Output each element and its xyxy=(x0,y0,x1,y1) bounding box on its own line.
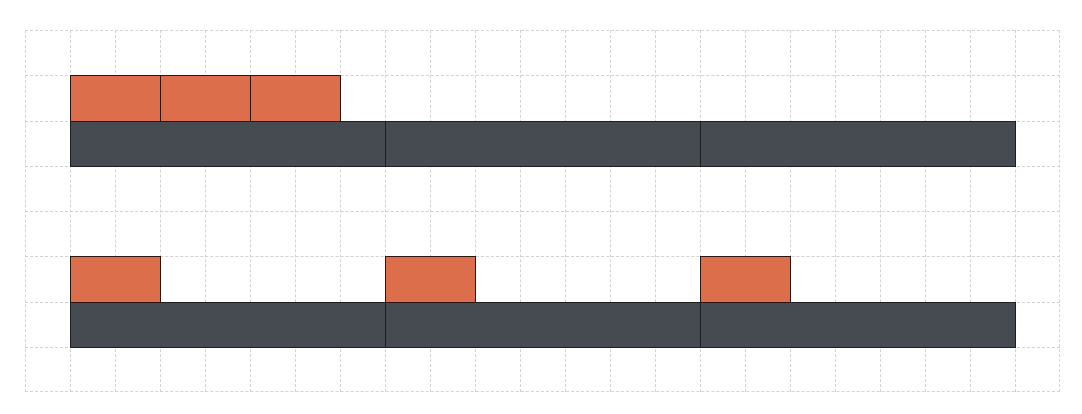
small-block xyxy=(385,256,476,302)
bar-segment xyxy=(385,302,701,348)
small-block xyxy=(160,75,251,121)
bar-segment xyxy=(385,121,701,167)
grid-line-horizontal xyxy=(25,256,1060,257)
small-block xyxy=(70,256,161,302)
small-block xyxy=(250,75,341,121)
bar-segment xyxy=(700,121,1016,167)
grid-line-horizontal xyxy=(25,211,1060,212)
small-block xyxy=(700,256,791,302)
small-block xyxy=(70,75,161,121)
grid-diagram xyxy=(0,0,1082,414)
bar-segment xyxy=(700,302,1016,348)
bar-segment xyxy=(70,302,386,348)
bar-segment xyxy=(70,121,386,167)
